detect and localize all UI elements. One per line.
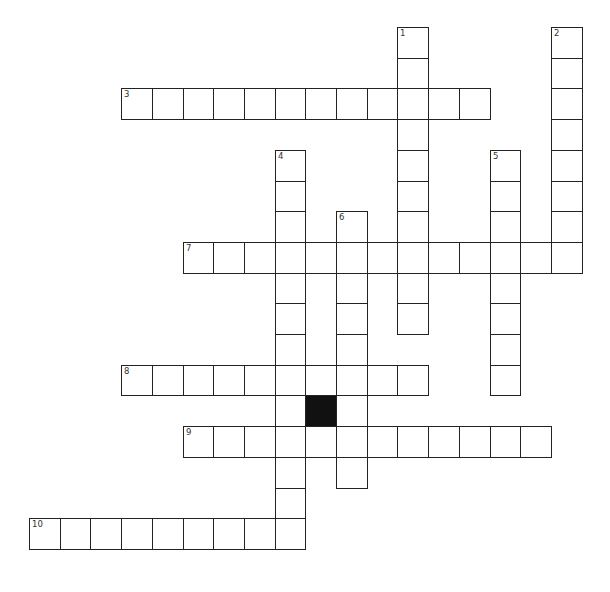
crossword-cell[interactable] bbox=[305, 365, 337, 396]
crossword-cell[interactable]: 8 bbox=[121, 365, 153, 396]
crossword-cell[interactable]: 3 bbox=[121, 88, 153, 120]
crossword-cell[interactable] bbox=[275, 334, 306, 366]
crossword-cell[interactable] bbox=[367, 88, 398, 120]
crossword-cell[interactable] bbox=[275, 303, 306, 335]
crossword-cell[interactable] bbox=[275, 488, 306, 519]
crossword-cell[interactable] bbox=[275, 518, 306, 550]
crossword-cell[interactable]: 1 bbox=[397, 27, 429, 59]
crossword-cell[interactable]: 7 bbox=[183, 242, 214, 274]
block-cell bbox=[305, 395, 337, 427]
crossword-cell[interactable] bbox=[336, 303, 368, 335]
crossword-cell[interactable]: 9 bbox=[183, 426, 214, 458]
crossword-cell[interactable] bbox=[152, 518, 184, 550]
crossword-cell[interactable] bbox=[367, 426, 398, 458]
crossword-cell[interactable] bbox=[490, 273, 521, 304]
crossword-cell[interactable] bbox=[336, 242, 368, 274]
crossword-cell[interactable] bbox=[213, 426, 245, 458]
crossword-cell[interactable] bbox=[551, 119, 583, 151]
crossword-cell[interactable] bbox=[490, 211, 521, 243]
crossword-cell[interactable] bbox=[275, 457, 306, 489]
crossword-cell[interactable] bbox=[183, 88, 214, 120]
crossword-cell[interactable] bbox=[60, 518, 91, 550]
crossword-cell[interactable] bbox=[152, 365, 184, 396]
crossword-cell[interactable] bbox=[490, 181, 521, 212]
crossword-cell[interactable]: 4 bbox=[275, 150, 306, 182]
crossword-cell[interactable]: 2 bbox=[551, 27, 583, 59]
crossword-cell[interactable]: 5 bbox=[490, 150, 521, 182]
crossword-cell[interactable] bbox=[490, 242, 521, 274]
crossword-cell[interactable] bbox=[121, 518, 153, 550]
crossword-cell[interactable] bbox=[305, 242, 337, 274]
crossword-cell[interactable] bbox=[90, 518, 122, 550]
crossword-cell[interactable] bbox=[336, 457, 368, 489]
clue-number: 1 bbox=[400, 29, 405, 38]
crossword-cell[interactable] bbox=[275, 273, 306, 304]
crossword-cell[interactable] bbox=[551, 58, 583, 89]
clue-number: 4 bbox=[278, 152, 283, 161]
crossword-cell[interactable] bbox=[397, 58, 429, 89]
crossword-cell[interactable] bbox=[428, 88, 460, 120]
crossword-cell[interactable] bbox=[305, 426, 337, 458]
crossword-cell[interactable]: 10 bbox=[29, 518, 61, 550]
crossword-cell[interactable] bbox=[275, 211, 306, 243]
crossword-cell[interactable] bbox=[397, 303, 429, 335]
clue-number: 8 bbox=[124, 367, 129, 376]
crossword-cell[interactable] bbox=[213, 518, 245, 550]
crossword-cell[interactable] bbox=[244, 242, 276, 274]
crossword-cell[interactable] bbox=[397, 119, 429, 151]
crossword-cell[interactable] bbox=[459, 242, 491, 274]
crossword-cell[interactable] bbox=[397, 88, 429, 120]
crossword-cell[interactable] bbox=[336, 334, 368, 366]
crossword-cell[interactable] bbox=[183, 518, 214, 550]
crossword-cell[interactable] bbox=[336, 273, 368, 304]
crossword-cell[interactable] bbox=[213, 365, 245, 396]
crossword-cell[interactable] bbox=[367, 365, 398, 396]
crossword-cell[interactable] bbox=[336, 395, 368, 427]
crossword-cell[interactable] bbox=[336, 426, 368, 458]
crossword-cell[interactable] bbox=[275, 88, 306, 120]
crossword-cell[interactable] bbox=[367, 242, 398, 274]
crossword-cell[interactable] bbox=[397, 273, 429, 304]
crossword-cell[interactable] bbox=[336, 365, 368, 396]
crossword-cell[interactable] bbox=[275, 181, 306, 212]
crossword-cell[interactable] bbox=[244, 88, 276, 120]
crossword-cell[interactable] bbox=[428, 242, 460, 274]
crossword-cell[interactable] bbox=[244, 426, 276, 458]
crossword-cell[interactable] bbox=[213, 88, 245, 120]
crossword-cell[interactable] bbox=[336, 88, 368, 120]
crossword-cell[interactable] bbox=[551, 242, 583, 274]
crossword-cell[interactable] bbox=[459, 426, 491, 458]
crossword-cell[interactable] bbox=[397, 365, 429, 396]
crossword-cell[interactable] bbox=[459, 88, 491, 120]
crossword-cell[interactable] bbox=[520, 242, 552, 274]
crossword-cell[interactable] bbox=[490, 303, 521, 335]
crossword-cell[interactable] bbox=[397, 426, 429, 458]
crossword-cell[interactable] bbox=[490, 334, 521, 366]
crossword-cell[interactable] bbox=[520, 426, 552, 458]
crossword-cell[interactable] bbox=[428, 426, 460, 458]
crossword-cell[interactable] bbox=[551, 88, 583, 120]
crossword-cell[interactable] bbox=[275, 365, 306, 396]
crossword-cell[interactable] bbox=[275, 242, 306, 274]
crossword-cell[interactable] bbox=[551, 181, 583, 212]
crossword-cell[interactable] bbox=[551, 211, 583, 243]
crossword-cell[interactable] bbox=[397, 181, 429, 212]
crossword-cell[interactable] bbox=[305, 88, 337, 120]
crossword-cell[interactable] bbox=[490, 426, 521, 458]
clue-number: 9 bbox=[186, 428, 191, 437]
crossword-cell[interactable] bbox=[152, 88, 184, 120]
clue-number: 3 bbox=[124, 90, 129, 99]
crossword-cell[interactable] bbox=[397, 242, 429, 274]
crossword-cell[interactable] bbox=[275, 395, 306, 427]
crossword-cell[interactable] bbox=[183, 365, 214, 396]
crossword-cell[interactable] bbox=[397, 150, 429, 182]
crossword-cell[interactable] bbox=[244, 365, 276, 396]
crossword-cell[interactable] bbox=[213, 242, 245, 274]
crossword-cell[interactable] bbox=[275, 426, 306, 458]
crossword-cell[interactable]: 6 bbox=[336, 211, 368, 243]
crossword-cell[interactable] bbox=[490, 365, 521, 396]
crossword-cell[interactable] bbox=[551, 150, 583, 182]
crossword-cell[interactable] bbox=[397, 211, 429, 243]
crossword-cell[interactable] bbox=[244, 518, 276, 550]
clue-number: 2 bbox=[554, 29, 559, 38]
